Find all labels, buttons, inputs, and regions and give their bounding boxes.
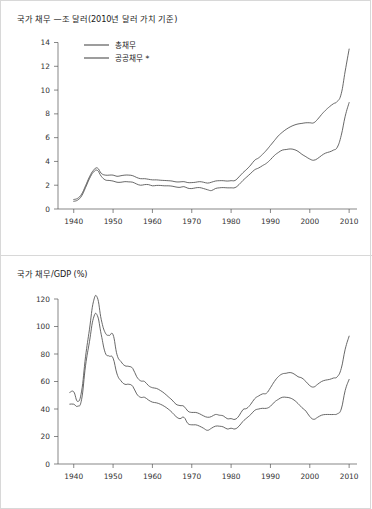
y-axis-tick-label: 12 [41, 62, 50, 71]
y-axis-tick-label: 8 [45, 109, 50, 118]
x-axis-tick-label: 1960 [143, 472, 162, 481]
x-axis-tick-label: 1990 [261, 217, 280, 226]
line-chart-national-debt: 0246810121419401950196019701980199020002… [1, 23, 372, 245]
legend-label-public-debt: 공공채무 * [115, 53, 149, 63]
y-axis-tick-label: 6 [45, 133, 50, 142]
y-axis-tick-label: 4 [45, 157, 50, 166]
y-axis-tick-label: 10 [41, 86, 51, 95]
x-axis-tick-label: 1950 [104, 217, 123, 226]
y-axis-tick-label: 0 [45, 205, 50, 214]
chart-panel-national-debt: 국가 채무 —조 달러(2010년 달러 가치 기준) 024681012141… [1, 1, 372, 255]
x-axis-tick-label: 1940 [64, 472, 83, 481]
x-axis-tick-label: 1950 [104, 472, 123, 481]
y-axis-tick-label: 80 [41, 350, 51, 359]
y-axis-tick-label: 40 [41, 405, 51, 414]
y-axis-tick-label: 2 [45, 181, 50, 190]
x-axis-tick-label: 1990 [261, 472, 280, 481]
x-axis-tick-label: 1970 [182, 217, 201, 226]
x-axis-tick-label: 2000 [300, 472, 319, 481]
y-axis-tick-label: 120 [36, 295, 50, 304]
x-axis-tick-label: 1970 [182, 472, 201, 481]
y-axis-tick-label: 100 [36, 322, 50, 331]
x-axis-tick-label: 2000 [300, 217, 319, 226]
y-axis-tick-label: 20 [41, 432, 51, 441]
x-axis-tick-label: 1940 [64, 217, 83, 226]
series-line-total-debt [70, 295, 349, 419]
plot-area-debt-to-gdp: 0204060801001201940195019601970198019902… [1, 278, 372, 500]
x-axis-tick-label: 2010 [340, 217, 359, 226]
plot-area-national-debt: 0246810121419401950196019701980199020002… [1, 23, 372, 245]
x-axis-tick-label: 1980 [222, 472, 241, 481]
series-line-public-debt [70, 313, 349, 430]
y-axis-tick-label: 60 [41, 377, 51, 386]
series-line-public-debt [74, 103, 349, 202]
x-axis-tick-label: 1980 [222, 217, 241, 226]
chart-panel-debt-to-gdp: 국가 채무/GDP (%) 02040608010012019401950196… [1, 255, 372, 509]
x-axis-tick-label: 2010 [340, 472, 359, 481]
legend-label-total-debt: 총채무 [115, 40, 136, 50]
y-axis-tick-label: 0 [45, 460, 50, 469]
x-axis-tick-label: 1960 [143, 217, 162, 226]
line-chart-debt-to-gdp: 0204060801001201940195019601970198019902… [1, 278, 372, 500]
y-axis-tick-label: 14 [41, 38, 51, 47]
series-line-total-debt [74, 49, 349, 199]
